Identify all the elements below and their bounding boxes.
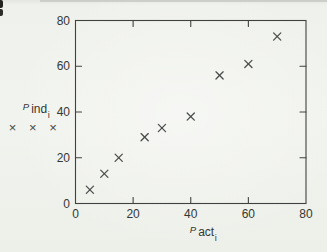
data-point-marker [187, 113, 194, 120]
y-tick-label: 0 [63, 197, 70, 211]
scanned-page: 020406080020406080 Pindi × × × Pacti [0, 0, 327, 252]
x-axis-title: Pacti [168, 226, 238, 239]
data-point-marker [216, 72, 223, 79]
y-axis-title: Pindi × × × [10, 103, 62, 135]
y-title-prefix: P [23, 101, 29, 112]
y-title-name: ind [31, 102, 47, 116]
x-tick-label: 60 [242, 207, 256, 221]
y-axis-variable: Pindi [23, 102, 49, 116]
x-title-prefix: P [190, 224, 196, 235]
data-point-marker [101, 170, 108, 177]
data-point-marker [245, 60, 252, 67]
x-tick-label: 0 [72, 207, 79, 221]
x-title-subscript: i [215, 233, 217, 243]
plot-frame [76, 21, 307, 204]
data-point-marker [115, 154, 122, 161]
x-axis-variable: Pacti [190, 225, 216, 239]
y-tick-label: 80 [57, 14, 71, 28]
data-point-marker [158, 124, 165, 131]
data-point-marker [86, 186, 93, 193]
x-tick-label: 80 [299, 207, 313, 221]
trace-marker-legend: × × × [10, 121, 62, 135]
x-title-name: act [198, 225, 214, 239]
y-tick-label: 60 [57, 59, 71, 73]
x-tick-label: 40 [184, 207, 198, 221]
x-tick-label: 20 [126, 207, 140, 221]
data-point-marker [141, 134, 148, 141]
data-point-marker [274, 33, 281, 40]
y-tick-label: 20 [57, 151, 71, 165]
y-title-subscript: i [48, 110, 50, 120]
